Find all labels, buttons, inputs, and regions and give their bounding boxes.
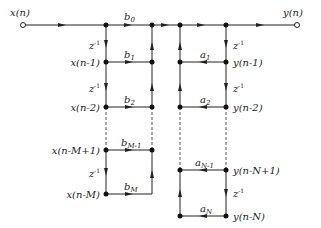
svg-text:z-1: z-1	[232, 187, 244, 199]
node-x-n-M+1: x(n-M+1)	[52, 145, 100, 156]
nodes	[104, 23, 229, 219]
svg-text:z-1: z-1	[232, 82, 244, 94]
node-y-n-N+1: y(n-N+1)	[232, 165, 280, 176]
input-terminal	[21, 23, 26, 28]
delay-labels: z-1 z-1 z-1 z-1 z-1 z-1	[88, 39, 244, 199]
output-terminal	[295, 23, 300, 28]
svg-text:z-1: z-1	[88, 39, 100, 51]
output-label: y(n)	[282, 7, 303, 18]
signal-flow-graph: x(n) y(n) b0 b1 b2 bM-1 bM a1 a2 aN-1 aN…	[0, 0, 321, 228]
coef-bM: bM	[124, 181, 138, 194]
coef-b2: b2	[124, 94, 135, 107]
coef-b1: b1	[124, 49, 135, 62]
node-y-n-N: y(n-N)	[232, 211, 265, 222]
node-x-n-M: x(n-M)	[66, 189, 100, 200]
svg-text:z-1: z-1	[232, 39, 244, 51]
node-x-n-1: x(n-1)	[70, 57, 100, 68]
coef-a2: a2	[200, 94, 211, 107]
node-y-n-1: y(n-1)	[232, 57, 263, 68]
coef-bM-1: bM-1	[121, 137, 141, 150]
coef-aN: aN	[200, 203, 213, 216]
coef-b0: b0	[124, 11, 135, 24]
coef-a1: a1	[200, 49, 210, 62]
svg-text:z-1: z-1	[88, 82, 100, 94]
node-y-n-2: y(n-2)	[232, 102, 263, 113]
input-label: x(n)	[10, 7, 30, 18]
node-x-n-2: x(n-2)	[70, 102, 100, 113]
svg-text:z-1: z-1	[88, 167, 100, 179]
coef-aN-1: aN-1	[195, 157, 214, 170]
